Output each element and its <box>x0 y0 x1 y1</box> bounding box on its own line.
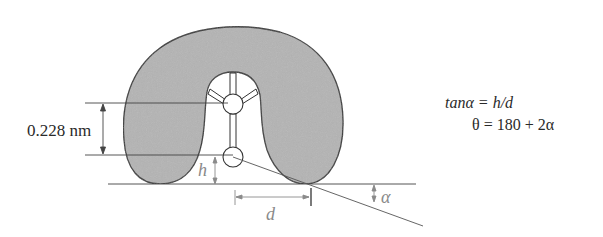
dimension-arrow <box>101 104 106 154</box>
dimension-label: 0.228 nm <box>27 121 91 140</box>
angle-label: α <box>381 187 391 207</box>
height-arrow <box>213 157 217 184</box>
height-label: h <box>198 160 207 180</box>
equation-tan-alpha: tanα = h/d <box>445 94 514 111</box>
upper-atom <box>223 94 243 114</box>
distance-arrow <box>235 190 309 205</box>
distance-label: d <box>266 204 276 224</box>
diagram-canvas: 0.228 nm h d α tanα = h/d θ = 180 + 2α <box>0 0 603 237</box>
equation-theta: θ = 180 + 2α <box>472 116 555 133</box>
angle-arrow <box>372 185 376 202</box>
